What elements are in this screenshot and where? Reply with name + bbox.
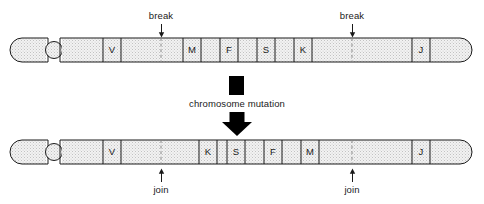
bottom-band-label-f: F	[270, 146, 276, 157]
top-band-label-f: F	[226, 44, 232, 55]
mutation-arrow-lower-head-icon	[222, 112, 252, 136]
top-band-label-j: J	[419, 44, 424, 55]
join-label-right: join	[344, 184, 359, 195]
bottom-band-label-v: V	[109, 146, 115, 157]
bottom-band-label-s: S	[233, 146, 239, 157]
chromosome-mutation-diagram: break break	[0, 0, 484, 204]
bottom-band-label-m: M	[306, 146, 314, 157]
mutation-arrow-upper-stem	[229, 76, 244, 95]
top-band-label-s: S	[263, 44, 269, 55]
join-marker-right-icon	[347, 168, 358, 182]
top-band-label-m: M	[188, 44, 196, 55]
process-label: chromosome mutation	[189, 98, 285, 109]
bottom-chromosome	[0, 139, 484, 167]
join-label-left: join	[153, 184, 168, 195]
top-band-label-v: V	[109, 44, 115, 55]
break-marker-left-icon	[156, 24, 167, 38]
top-band-label-k: K	[300, 44, 306, 55]
break-marker-right-icon	[347, 24, 358, 38]
break-label-right: break	[340, 10, 364, 21]
bottom-band-label-j: J	[419, 146, 424, 157]
break-label-left: break	[149, 10, 173, 21]
bottom-band-label-k: K	[205, 146, 211, 157]
top-chromosome	[0, 37, 484, 65]
join-marker-left-icon	[156, 168, 167, 182]
